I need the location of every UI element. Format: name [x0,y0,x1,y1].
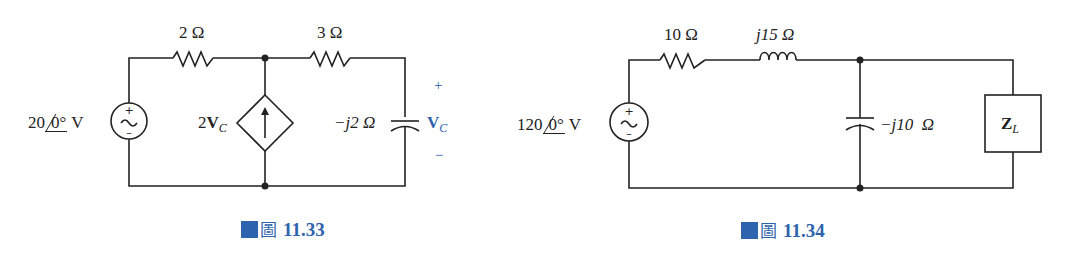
node-dot [857,57,864,64]
circuit-11-34 [610,53,1041,189]
node-dot [262,183,269,190]
angle-symbol: 0° [543,116,565,134]
caption-square-icon [241,221,258,238]
capacitor-label-11-34: −j10 Ω [880,116,934,133]
svg-text:+: + [624,105,633,118]
resistor-10ohm-label: 10 Ω [664,26,698,43]
svg-text:+: + [124,104,133,117]
angle-symbol: 0° [45,114,67,132]
node-dot [262,55,269,62]
caption-square-icon [741,222,758,239]
load-label: ZL [1001,115,1019,135]
vc-label: VC [427,114,447,134]
vc-minus: − [435,148,443,163]
node-dot [857,185,864,192]
figure-caption-11-34: 圖11.34 [741,221,825,240]
inductor-label: j15 Ω [756,26,794,43]
source-label-11-34: 1200° V [517,116,581,134]
figure-caption-11-33: 圖11.33 [241,220,325,239]
capacitor-label-11-33: −j2 Ω [334,114,375,131]
resistor-2ohm-label: 2 Ω [179,24,204,41]
source-label-11-33: 200° V [28,114,84,132]
dependent-source-label: 2VC [198,114,227,134]
svg-text:–: – [626,127,632,140]
arrow-up-icon [261,107,269,115]
resistor-3ohm-label: 3 Ω [317,24,342,41]
vc-plus: + [434,78,442,93]
svg-text:–: – [126,126,132,139]
